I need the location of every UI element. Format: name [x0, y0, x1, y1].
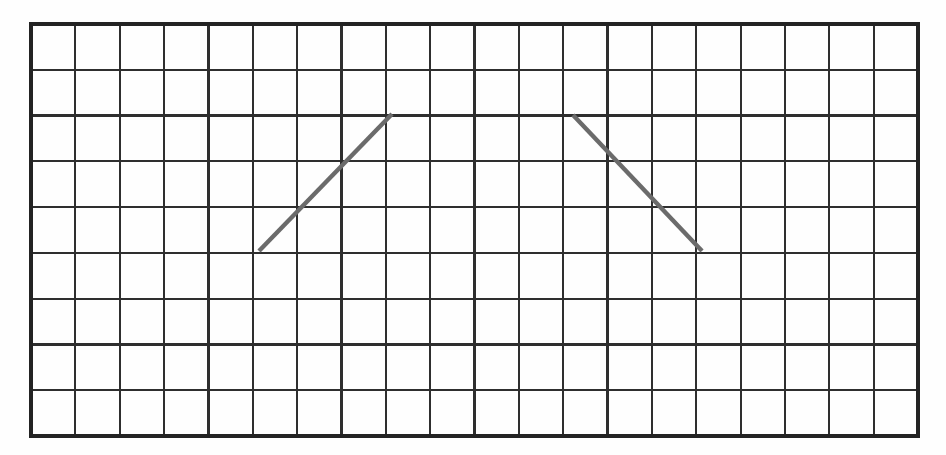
grid-figure	[0, 0, 946, 455]
line-segments	[259, 114, 702, 251]
segment-descending-segment	[573, 115, 702, 251]
segment-ascending-segment	[259, 114, 392, 251]
grid-lines	[31, 24, 918, 436]
figure-root	[0, 0, 946, 455]
